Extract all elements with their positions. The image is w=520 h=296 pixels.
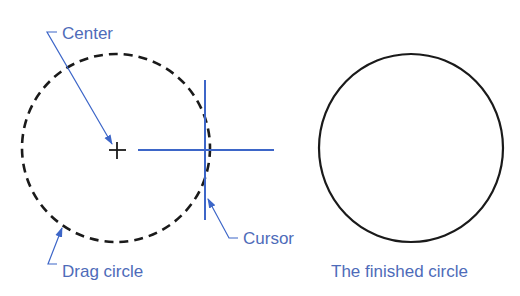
center-label: Center bbox=[62, 24, 113, 43]
cursor-crosshair-icon bbox=[138, 80, 274, 220]
drag-circle bbox=[22, 54, 210, 242]
finished-circle-label: The finished circle bbox=[331, 262, 468, 281]
cursor-label: Cursor bbox=[243, 229, 294, 248]
drag-circle-leader bbox=[48, 228, 62, 264]
center-leader bbox=[47, 32, 112, 144]
center-mark-icon bbox=[109, 142, 126, 159]
circle-drawing-diagram: Center Cursor Drag circle The finished c… bbox=[0, 0, 520, 296]
cursor-leader bbox=[208, 199, 238, 238]
drag-circle-label: Drag circle bbox=[62, 262, 143, 281]
finished-circle bbox=[319, 54, 503, 242]
